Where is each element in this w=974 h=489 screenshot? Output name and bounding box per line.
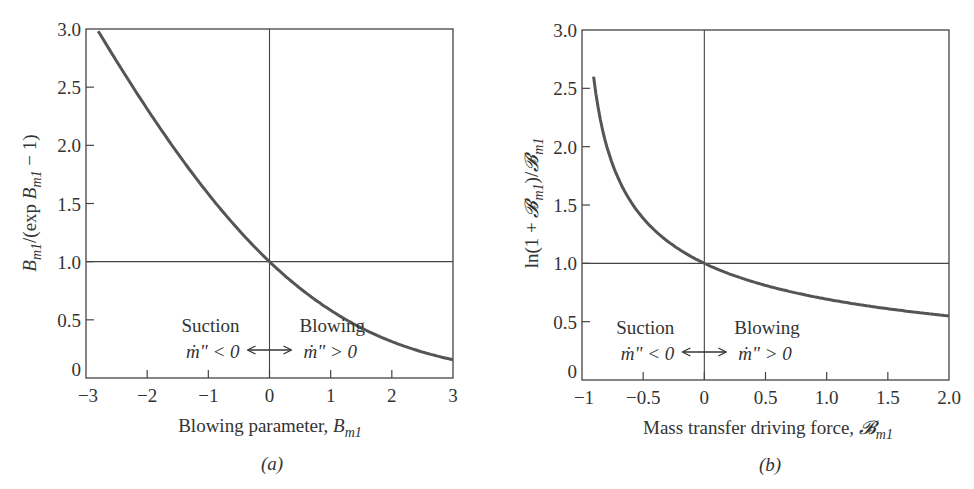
x-tick-label: −3 bbox=[78, 385, 98, 406]
chart-a-panel-label: (a) bbox=[261, 453, 283, 475]
blowing-condition: ṁ" > 0 bbox=[304, 341, 358, 362]
chart-b-xlabel: Mass transfer driving force, 𝓑m1 bbox=[643, 417, 893, 442]
y-tick-label: 2.5 bbox=[57, 77, 81, 98]
x-tick-label: −0.5 bbox=[626, 387, 660, 408]
y-tick-label: 1.0 bbox=[553, 253, 577, 274]
suction-condition: ṁ" < 0 bbox=[621, 343, 675, 364]
x-tick-label: 1 bbox=[326, 385, 336, 406]
suction-condition: ṁ" < 0 bbox=[186, 341, 240, 362]
chart-a-annotations: Suctionṁ" < 0Blowingṁ" > 0 bbox=[181, 315, 365, 362]
y-tick-label: 1.5 bbox=[553, 195, 577, 216]
x-tick-label: 2.0 bbox=[937, 387, 961, 408]
y-tick-label: 0 bbox=[72, 359, 82, 380]
chart-a-curve bbox=[98, 31, 453, 360]
chart-b: −1−0.500.51.01.52.000.51.01.52.02.53.0 S… bbox=[521, 20, 961, 476]
chart-b-annotations: Suctionṁ" < 0Blowingṁ" > 0 bbox=[616, 317, 800, 364]
x-tick-label: 1.0 bbox=[815, 387, 839, 408]
y-tick-label: 2.0 bbox=[57, 135, 81, 156]
x-tick-label: 0 bbox=[700, 387, 710, 408]
blowing-label: Blowing bbox=[300, 315, 366, 336]
chart-a-reference-lines bbox=[86, 29, 453, 378]
blowing-label: Blowing bbox=[734, 317, 800, 338]
x-tick-label: −1 bbox=[198, 385, 218, 406]
y-tick-label: 1.5 bbox=[57, 194, 81, 215]
y-tick-label: 3.0 bbox=[57, 19, 81, 40]
y-tick-label: 0 bbox=[568, 361, 578, 382]
x-tick-label: 2 bbox=[387, 385, 397, 406]
chart-a-ylabel: Bm1/(exp Bm1 − 1) bbox=[19, 134, 44, 271]
chart-b-curve bbox=[594, 77, 949, 316]
figure: −3−2−1012300.51.01.52.02.53.0 Suctionṁ" … bbox=[0, 0, 974, 489]
x-tick-label: 0.5 bbox=[754, 387, 778, 408]
x-tick-label: 0 bbox=[265, 385, 275, 406]
y-tick-label: 0.5 bbox=[57, 310, 81, 331]
y-tick-label: 0.5 bbox=[553, 312, 577, 333]
y-tick-label: 2.0 bbox=[553, 137, 577, 158]
chart-b-ylabel: ln(1 + 𝓑m1)/𝓑m1 bbox=[521, 138, 546, 269]
chart-a-xlabel: Blowing parameter, Bm1 bbox=[178, 415, 362, 440]
x-tick-label: −1 bbox=[574, 387, 594, 408]
suction-label: Suction bbox=[181, 315, 240, 336]
y-tick-label: 1.0 bbox=[57, 252, 81, 273]
x-tick-label: 3 bbox=[448, 385, 458, 406]
blowing-condition: ṁ" > 0 bbox=[738, 343, 792, 364]
x-tick-label: 1.5 bbox=[876, 387, 900, 408]
x-tick-label: −2 bbox=[137, 385, 157, 406]
y-tick-label: 2.5 bbox=[553, 78, 577, 99]
chart-a: −3−2−1012300.51.01.52.02.53.0 Suctionṁ" … bbox=[19, 19, 458, 475]
y-tick-label: 3.0 bbox=[553, 20, 577, 41]
chart-b-panel-label: (b) bbox=[759, 454, 781, 476]
suction-label: Suction bbox=[616, 317, 675, 338]
chart-a-ticks: −3−2−1012300.51.01.52.02.53.0 bbox=[57, 19, 458, 406]
